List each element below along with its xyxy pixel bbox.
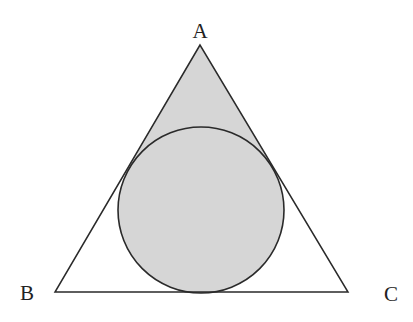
inscribed-circle (118, 127, 284, 293)
vertex-label-b: B (20, 281, 34, 305)
vertex-label-c: C (384, 282, 398, 306)
vertex-label-a: A (192, 19, 208, 43)
diagram-canvas: A B C (0, 0, 413, 322)
triangle-circle-diagram: A B C (0, 0, 413, 322)
